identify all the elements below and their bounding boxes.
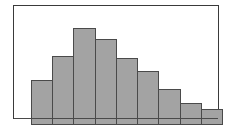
histogram-bar	[52, 56, 74, 125]
plot-area	[28, 12, 231, 125]
histogram-bar	[201, 109, 223, 125]
histogram-bar	[95, 39, 117, 125]
histogram-bars	[31, 12, 231, 125]
histogram-bar	[180, 103, 202, 125]
plot-frame	[13, 5, 219, 119]
histogram-bar	[137, 71, 159, 125]
histogram-bar	[158, 89, 180, 125]
x-axis-baseline	[14, 118, 218, 119]
histogram-bar	[73, 28, 95, 125]
histogram-screenshot	[0, 0, 231, 130]
histogram-bar	[116, 58, 138, 125]
